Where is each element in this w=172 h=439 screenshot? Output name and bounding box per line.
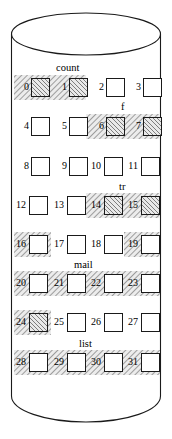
block-30[interactable]: 30 (89, 353, 123, 375)
block-15-box[interactable] (141, 196, 160, 215)
block-13-index: 13 (49, 199, 64, 210)
block-31-box[interactable] (141, 353, 160, 372)
block-6[interactable]: 6 (92, 117, 126, 139)
block-15[interactable]: 15 (126, 196, 160, 218)
block-31-index: 31 (123, 356, 138, 367)
block-23-index: 23 (123, 277, 138, 288)
block-18-index: 18 (86, 238, 101, 249)
block-29[interactable]: 29 (52, 353, 86, 375)
block-11[interactable]: 11 (126, 157, 160, 179)
block-row-4: 16 17 18 19 (0, 235, 172, 275)
block-17-box[interactable] (67, 235, 86, 254)
block-0-index: 0 (17, 81, 29, 92)
block-row-1: 4 5 6 7 (0, 117, 172, 157)
block-8-box[interactable] (31, 157, 50, 176)
block-12-box[interactable] (29, 196, 48, 215)
block-10-box[interactable] (104, 157, 123, 176)
block-29-index: 29 (49, 356, 64, 367)
block-25-index: 25 (49, 316, 64, 327)
block-26[interactable]: 26 (89, 313, 123, 335)
block-26-index: 26 (86, 316, 101, 327)
block-31[interactable]: 31 (126, 353, 160, 375)
block-0[interactable]: 0 (17, 78, 51, 100)
block-0-box[interactable] (31, 78, 50, 97)
block-14-index: 14 (86, 199, 101, 210)
block-1-index: 1 (55, 81, 67, 92)
block-13[interactable]: 13 (52, 196, 86, 218)
block-20-index: 20 (11, 277, 26, 288)
block-5-box[interactable] (69, 117, 88, 136)
block-3-index: 3 (129, 81, 141, 92)
block-4-index: 4 (17, 120, 29, 131)
block-30-box[interactable] (104, 353, 123, 372)
block-25[interactable]: 25 (52, 313, 86, 335)
block-5[interactable]: 5 (55, 117, 89, 139)
block-row-6: 24 25 26 27 (0, 313, 172, 353)
block-26-box[interactable] (104, 313, 123, 332)
block-8-index: 8 (17, 160, 29, 171)
block-17[interactable]: 17 (52, 235, 86, 257)
block-1[interactable]: 1 (55, 78, 89, 100)
block-4-box[interactable] (31, 117, 50, 136)
block-8[interactable]: 8 (17, 157, 51, 179)
block-20[interactable]: 20 (14, 274, 48, 296)
block-24-index: 24 (11, 316, 26, 327)
block-23-box[interactable] (141, 274, 160, 293)
block-27-index: 27 (123, 316, 138, 327)
block-28-box[interactable] (29, 353, 48, 372)
block-30-index: 30 (86, 356, 101, 367)
block-14-box[interactable] (104, 196, 123, 215)
block-2[interactable]: 2 (92, 78, 126, 100)
block-28-index: 28 (11, 356, 26, 367)
block-9-index: 9 (55, 160, 67, 171)
block-28[interactable]: 28 (14, 353, 48, 375)
block-22[interactable]: 22 (89, 274, 123, 296)
block-27[interactable]: 27 (126, 313, 160, 335)
block-row-0: 0 1 2 3 (0, 78, 172, 118)
block-1-box[interactable] (69, 78, 88, 97)
block-13-box[interactable] (67, 196, 86, 215)
block-23[interactable]: 23 (126, 274, 160, 296)
block-22-index: 22 (86, 277, 101, 288)
block-row-2: 8 9 10 11 (0, 157, 172, 197)
block-21[interactable]: 21 (52, 274, 86, 296)
block-7-box[interactable] (143, 117, 162, 136)
diagram-canvas: count f tr mail list 0 1 2 3 (0, 0, 172, 439)
block-19[interactable]: 19 (126, 235, 160, 257)
block-2-box[interactable] (106, 78, 125, 97)
block-3[interactable]: 3 (129, 78, 163, 100)
block-21-index: 21 (49, 277, 64, 288)
block-24[interactable]: 24 (14, 313, 48, 335)
block-3-box[interactable] (143, 78, 162, 97)
block-29-box[interactable] (67, 353, 86, 372)
block-11-box[interactable] (141, 157, 160, 176)
block-7-index: 7 (129, 120, 141, 131)
block-20-box[interactable] (29, 274, 48, 293)
block-11-index: 11 (123, 160, 138, 171)
block-17-index: 17 (49, 238, 64, 249)
block-row-7: 28 29 30 31 (0, 353, 172, 393)
block-16-box[interactable] (29, 235, 48, 254)
block-18-box[interactable] (104, 235, 123, 254)
block-16[interactable]: 16 (14, 235, 48, 257)
block-4[interactable]: 4 (17, 117, 51, 139)
block-12[interactable]: 12 (14, 196, 48, 218)
block-10[interactable]: 10 (89, 157, 123, 179)
block-21-box[interactable] (67, 274, 86, 293)
block-15-index: 15 (123, 199, 138, 210)
block-10-index: 10 (86, 160, 101, 171)
block-14[interactable]: 14 (89, 196, 123, 218)
block-row-3: 12 13 14 15 (0, 196, 172, 236)
block-9[interactable]: 9 (55, 157, 89, 179)
block-19-index: 19 (123, 238, 138, 249)
block-7[interactable]: 7 (129, 117, 163, 139)
block-18[interactable]: 18 (89, 235, 123, 257)
block-25-box[interactable] (67, 313, 86, 332)
block-12-index: 12 (11, 199, 26, 210)
block-6-box[interactable] (106, 117, 125, 136)
block-27-box[interactable] (141, 313, 160, 332)
block-24-box[interactable] (29, 313, 48, 332)
block-16-index: 16 (11, 238, 26, 249)
block-22-box[interactable] (104, 274, 123, 293)
block-19-box[interactable] (141, 235, 160, 254)
